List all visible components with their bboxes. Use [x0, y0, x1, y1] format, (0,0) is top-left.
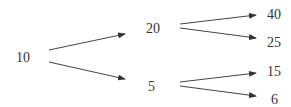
tree-diagram: 10 20 5 40 25 15 6: [0, 0, 291, 107]
edge-root-down: [49, 62, 125, 79]
edge-up-upup: [180, 15, 256, 24]
node-root: 10: [16, 50, 30, 65]
node-upup: 40: [267, 7, 281, 22]
node-down: 5: [148, 79, 155, 94]
node-downdown: 6: [271, 92, 278, 107]
edge-down-downup: [180, 73, 256, 82]
edge-up-updown: [180, 28, 256, 38]
node-updown: 25: [267, 35, 281, 50]
node-downup: 15: [267, 64, 281, 79]
node-up: 20: [146, 21, 160, 36]
edge-down-downdown: [180, 86, 256, 96]
edge-root-up: [49, 34, 125, 50]
